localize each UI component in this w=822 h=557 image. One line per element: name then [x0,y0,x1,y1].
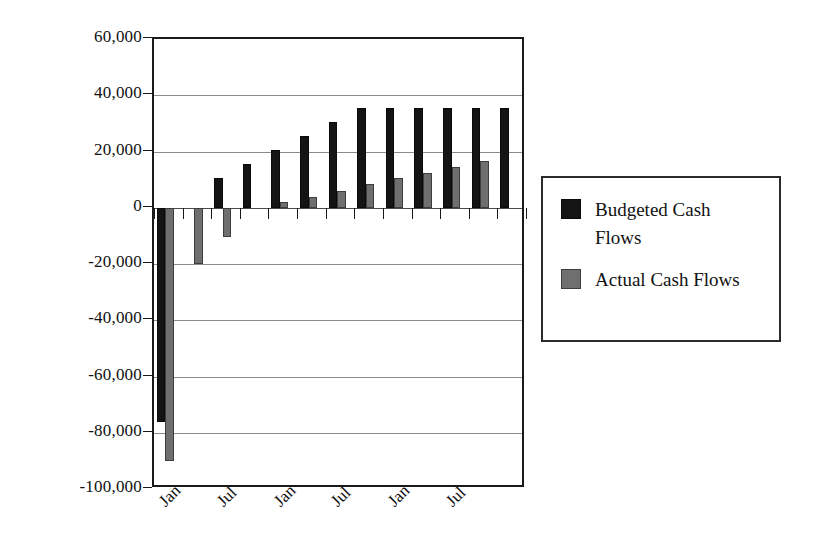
legend-label-budgeted: Budgeted Cash Flows [595,196,755,251]
x-axis-tick-label: Jul [327,483,355,511]
legend-swatch-budgeted-icon [561,199,581,219]
cash-flow-bar-chart: 60,00040,00020,0000-20,000-40,000-60,000… [0,0,822,557]
x-axis-tick-label: Jan [270,481,300,511]
legend-swatch-actual-icon [561,269,581,289]
x-axis-tick-label: Jan [384,481,414,511]
legend-item-actual: Actual Cash Flows [561,266,740,294]
legend-item-budgeted: Budgeted Cash Flows [561,196,755,251]
x-axis-tick-label: Jul [213,483,241,511]
x-axis-tick-label: Jul [442,483,470,511]
x-axis-tick-label: Jan [155,481,185,511]
chart-legend: Budgeted Cash Flows Actual Cash Flows [541,176,781,342]
legend-label-actual: Actual Cash Flows [595,266,740,294]
